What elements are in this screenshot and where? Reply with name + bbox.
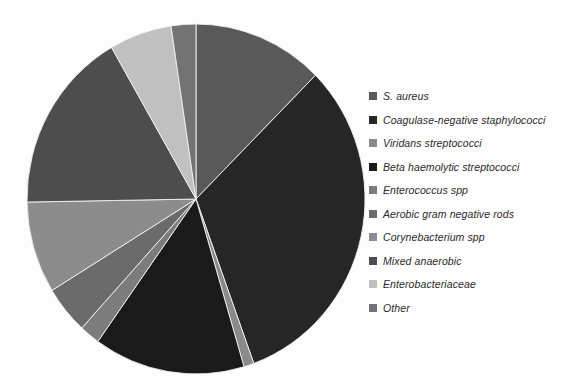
legend-swatch-icon bbox=[369, 304, 377, 312]
legend-item[interactable]: Aerobic gram negative rods bbox=[369, 208, 565, 232]
legend-item-label: Corynebacterium spp bbox=[383, 231, 485, 244]
legend-swatch-icon bbox=[369, 280, 377, 288]
pie-chart-svg bbox=[24, 22, 368, 376]
legend-item[interactable]: Enterobacteriaceae bbox=[369, 278, 565, 302]
legend-item-label: Mixed anaerobic bbox=[383, 255, 462, 268]
pie-chart-figure: S. aureusCoagulase-negative staphylococc… bbox=[0, 0, 567, 381]
legend-swatch-icon bbox=[369, 92, 377, 100]
legend-item[interactable]: S. aureus bbox=[369, 90, 565, 114]
legend-item[interactable]: Mixed anaerobic bbox=[369, 255, 565, 279]
legend-swatch-icon bbox=[369, 186, 377, 194]
legend-item-label: Viridans streptococci bbox=[383, 137, 482, 150]
legend-item[interactable]: Corynebacterium spp bbox=[369, 231, 565, 255]
legend-item-label: Beta haemolytic streptococci bbox=[383, 161, 519, 174]
legend-item[interactable]: Enterococcus spp bbox=[369, 184, 565, 208]
legend-item-label: Enterococcus spp bbox=[383, 184, 468, 197]
legend-item[interactable]: Beta haemolytic streptococci bbox=[369, 161, 565, 185]
chart-legend: S. aureusCoagulase-negative staphylococc… bbox=[369, 90, 565, 326]
legend-swatch-icon bbox=[369, 233, 377, 241]
legend-swatch-icon bbox=[369, 210, 377, 218]
legend-swatch-icon bbox=[369, 163, 377, 171]
pie-chart-plot-area bbox=[24, 22, 368, 376]
legend-item-label: Enterobacteriaceae bbox=[383, 278, 476, 291]
legend-item-label: S. aureus bbox=[383, 90, 429, 103]
legend-item[interactable]: Other bbox=[369, 302, 565, 326]
legend-item-label: Other bbox=[383, 302, 410, 315]
legend-swatch-icon bbox=[369, 116, 377, 124]
pie-slice-group bbox=[27, 24, 365, 374]
legend-item-label: Aerobic gram negative rods bbox=[383, 208, 514, 221]
legend-item[interactable]: Coagulase-negative staphylococci bbox=[369, 114, 565, 138]
legend-swatch-icon bbox=[369, 257, 377, 265]
legend-swatch-icon bbox=[369, 139, 377, 147]
legend-item[interactable]: Viridans streptococci bbox=[369, 137, 565, 161]
legend-item-label: Coagulase-negative staphylococci bbox=[383, 114, 546, 127]
